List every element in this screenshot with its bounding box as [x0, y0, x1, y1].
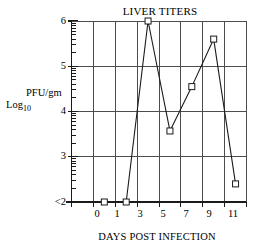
x-tick-label: 1	[105, 209, 129, 220]
x-tick-label: 5	[151, 209, 175, 220]
x-axis-label: DAYS POST INFECTION	[60, 231, 254, 242]
x-tick-label: 9	[197, 209, 221, 220]
x-tick-label: 3	[128, 209, 152, 220]
x-tick-label-group: 0 1 3 5 7 9 11	[0, 0, 254, 250]
x-tick-label: 11	[221, 209, 245, 220]
x-tick-label: 7	[174, 209, 198, 220]
chart-figure: LIVER TITERS PFU/gm Log10 <2 3 4 5 6 0 1…	[0, 0, 254, 250]
